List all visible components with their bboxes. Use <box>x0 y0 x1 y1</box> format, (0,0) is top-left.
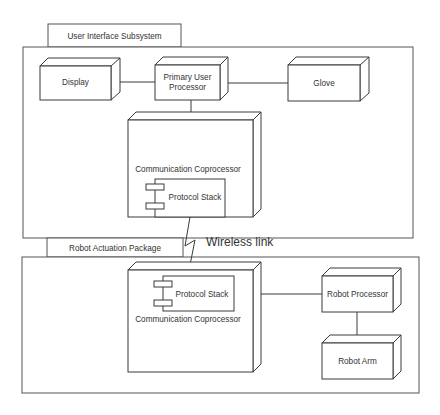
component-label: Protocol Stack <box>176 290 230 299</box>
node-label: Robot Processor <box>327 290 388 299</box>
node-glove: Glove <box>288 57 369 101</box>
component-protocol-stack-top: Protocol Stack <box>146 179 225 217</box>
node-communication-coprocessor-bottom: Protocol Stack Communication Coprocessor <box>128 262 261 372</box>
deployment-diagram: User Interface Subsystem Robot Actuation… <box>0 0 440 415</box>
node-label: Communication Coprocessor <box>135 165 241 174</box>
node-robot-processor: Robot Processor <box>322 268 401 312</box>
node-label: Display <box>62 78 90 87</box>
node-label: Glove <box>313 79 335 88</box>
wireless-link-label: Wireless link <box>206 235 274 249</box>
node-label: Robot Arm <box>338 357 377 366</box>
component-port-icon <box>154 300 172 306</box>
node-primary-user-processor: Primary User Processor <box>155 57 228 100</box>
node-communication-coprocessor-top: Communication Coprocessor Protocol Stack <box>128 112 261 217</box>
component-port-icon <box>146 184 164 190</box>
node-label: Communication Coprocessor <box>135 315 241 324</box>
component-port-icon <box>154 281 172 287</box>
package-label: User Interface Subsystem <box>67 32 161 41</box>
node-label-line2: Processor <box>169 83 206 92</box>
package-label: Robot Actuation Package <box>69 244 161 253</box>
node-label-line1: Primary User <box>164 73 212 82</box>
component-protocol-stack-bottom: Protocol Stack <box>154 276 234 311</box>
component-label: Protocol Stack <box>169 193 223 202</box>
node-robot-arm: Robot Arm <box>322 335 401 379</box>
component-port-icon <box>146 203 164 209</box>
node-display: Display <box>40 58 120 100</box>
